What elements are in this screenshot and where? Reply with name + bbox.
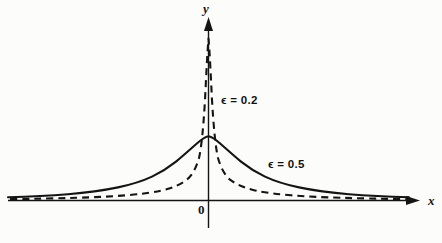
y-axis-label: y [203,2,209,15]
y-axis-arrow-icon [204,17,213,31]
curve-label-epsilon-0-2: ϵ = 0.2 [221,95,258,107]
x-axis-label: x [428,194,435,207]
plot-canvas [0,0,442,243]
origin-label: 0 [198,203,205,216]
curve-label-epsilon-0-5: ϵ = 0.5 [268,159,305,171]
figure-container: y x 0 ϵ = 0.2 ϵ = 0.5 [0,0,442,243]
